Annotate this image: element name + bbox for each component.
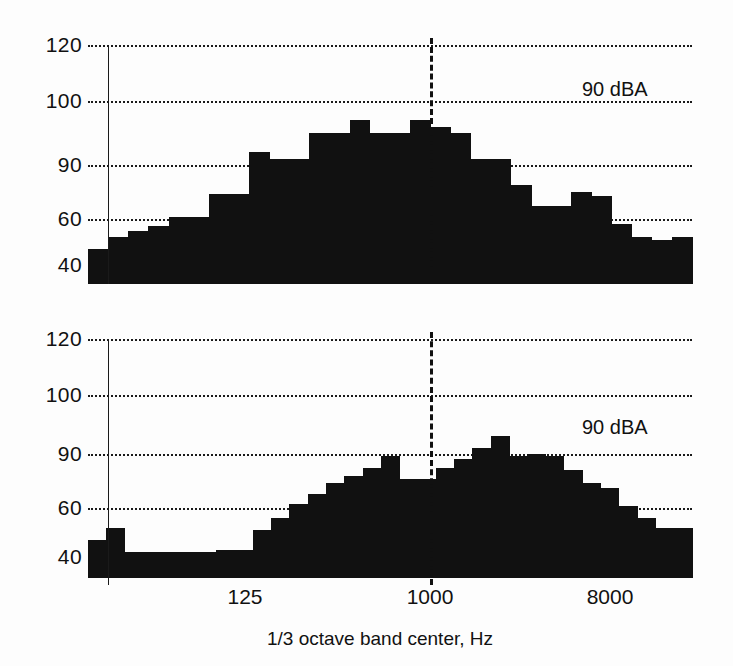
bar: [637, 518, 656, 578]
bar: [390, 133, 411, 284]
bar: [632, 237, 653, 284]
bar: [399, 479, 418, 578]
y-tick-40: 40: [22, 253, 82, 277]
bar: [672, 237, 693, 284]
bar: [381, 456, 400, 578]
vertical-reference-line-solid: [108, 45, 109, 284]
bottom-panel: 120 100 90 60 40 90 dBA 125 1000 8000 1/…: [0, 320, 733, 666]
bar: [472, 448, 491, 578]
bar: [309, 133, 330, 284]
bar: [88, 249, 109, 284]
x-tick-1000: 1000: [407, 585, 454, 609]
bar: [289, 159, 310, 284]
bar: [655, 528, 674, 578]
bar: [471, 159, 492, 284]
bar: [450, 133, 471, 284]
top-plot-area: [88, 36, 692, 284]
bar: [234, 550, 253, 578]
bar: [551, 206, 572, 284]
x-tick-8000: 8000: [587, 585, 634, 609]
y-tick-40: 40: [22, 545, 82, 569]
bar: [531, 206, 552, 284]
bar: [169, 217, 190, 284]
bar: [216, 550, 235, 578]
y-tick-60: 60: [22, 207, 82, 231]
y-tick-60: 60: [22, 496, 82, 520]
bar: [582, 483, 601, 578]
figure-root: 120 100 90 60 40 90 dBA 120 100: [0, 0, 733, 666]
bar: [611, 224, 632, 284]
bar: [289, 504, 308, 578]
bar: [344, 476, 363, 578]
bar: [674, 528, 693, 578]
top-bar-series: [88, 36, 692, 284]
bar: [430, 127, 451, 284]
bar: [125, 552, 144, 578]
bar: [410, 120, 431, 284]
bar: [564, 470, 583, 578]
y-tick-120: 120: [22, 327, 82, 351]
bar: [269, 159, 290, 284]
bar: [326, 483, 345, 578]
bar: [308, 494, 327, 578]
y-tick-120: 120: [22, 33, 82, 57]
bar: [417, 479, 436, 578]
bar: [591, 196, 612, 284]
y-tick-100: 100: [22, 89, 82, 113]
bar: [253, 530, 272, 578]
top-panel-annotation: 90 dBA: [582, 78, 648, 101]
bar: [143, 552, 162, 578]
bar: [511, 185, 532, 284]
bar: [161, 552, 180, 578]
bar: [88, 540, 107, 578]
bar: [271, 518, 290, 578]
bar: [330, 133, 351, 284]
bottom-panel-annotation: 90 dBA: [582, 416, 648, 439]
bar: [454, 459, 473, 578]
y-tick-90: 90: [22, 442, 82, 466]
bar: [436, 468, 455, 578]
bar: [491, 159, 512, 284]
bar: [600, 488, 619, 578]
bar: [128, 231, 149, 285]
bar: [491, 436, 510, 578]
bar: [189, 217, 210, 284]
bar: [370, 133, 391, 284]
vertical-reference-line-1000hz: [430, 38, 433, 284]
y-tick-90: 90: [22, 153, 82, 177]
bottom-bar-series: [88, 330, 692, 578]
y-tick-100: 100: [22, 383, 82, 407]
vertical-reference-line-1000hz: [430, 332, 433, 585]
bar: [509, 456, 528, 578]
bar: [619, 506, 638, 578]
vertical-reference-line-solid: [108, 339, 109, 585]
bar: [180, 552, 199, 578]
bar: [209, 194, 230, 284]
bar: [571, 192, 592, 284]
bar: [198, 552, 217, 578]
bar: [546, 456, 565, 578]
bar: [148, 226, 169, 284]
bottom-plot-area: [88, 330, 692, 578]
bar: [527, 454, 546, 578]
bar: [229, 194, 250, 284]
bar: [652, 240, 673, 284]
bar: [106, 528, 125, 578]
top-panel: 120 100 90 60 40 90 dBA: [0, 0, 733, 310]
bar: [249, 152, 270, 284]
x-tick-125: 125: [227, 585, 262, 609]
bar: [363, 468, 382, 578]
bar: [108, 237, 129, 284]
bar: [350, 120, 371, 284]
x-axis-title: 1/3 octave band center, Hz: [267, 628, 493, 650]
